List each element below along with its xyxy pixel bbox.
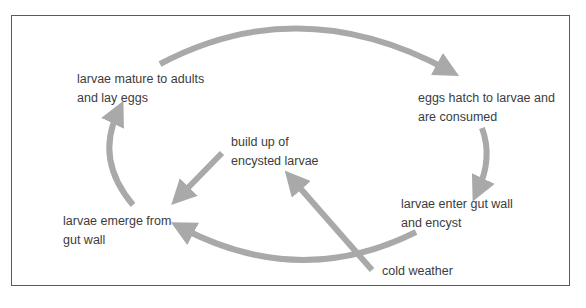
node-larvae-enter: larvae enter gut wall and encyst	[401, 195, 513, 233]
arrow-emerge-to-mature	[109, 112, 133, 205]
node-cold-weather: cold weather	[382, 262, 453, 281]
node-build-up: build up of encysted larvae	[231, 133, 319, 171]
arrow-mature-to-hatch	[160, 28, 448, 70]
arrow-buildup-to-emerge	[180, 153, 222, 196]
arrow-hatch-to-enter	[478, 128, 487, 190]
node-larvae-mature: larvae mature to adults and lay eggs	[77, 70, 204, 108]
node-eggs-hatch: eggs hatch to larvae and are consumed	[418, 89, 555, 127]
node-larvae-emerge: larvae emerge from gut wall	[63, 212, 171, 250]
arrow-enter-to-emerge	[182, 228, 416, 260]
